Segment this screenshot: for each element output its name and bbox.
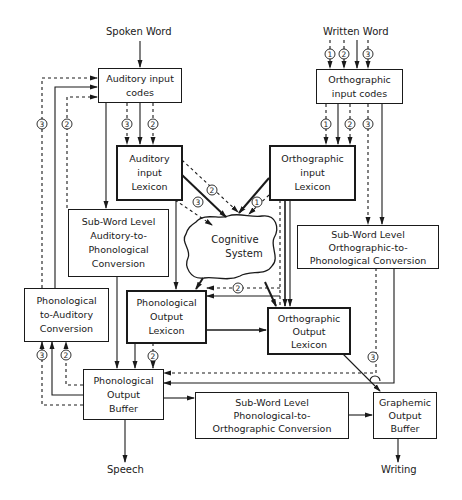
box-line: Output — [150, 310, 183, 324]
box-line: to-Auditory — [40, 308, 93, 322]
box-line: Lexicon — [291, 338, 327, 351]
box-line: Cognitive — [200, 233, 270, 247]
auditory-input-lexicon-box: Auditory input Lexicon — [116, 145, 183, 201]
box-line: Buffer — [391, 422, 420, 435]
spoken-word-label: Spoken Word — [106, 26, 172, 37]
svg-text:2: 2 — [210, 186, 215, 195]
box-line: Phonological — [36, 294, 96, 308]
speech-label: Speech — [107, 464, 144, 475]
phonological-output-buffer-box: Phonological Output Buffer — [83, 369, 164, 420]
svg-text:3: 3 — [371, 353, 376, 362]
box-line: Buffer — [109, 402, 138, 416]
box-line: Sub-Word Level — [82, 215, 156, 229]
box-line: Orthographic-to- — [328, 241, 407, 254]
box-line: Lexicon — [148, 324, 184, 338]
box-line: Conversion — [40, 322, 93, 336]
subword-phonological-to-orthographic-box: Sub-Word Level Phonological-to- Orthogra… — [195, 392, 349, 439]
box-line: Phonological — [88, 243, 148, 257]
svg-text:3: 3 — [366, 120, 371, 129]
box-line: Graphemic — [379, 396, 431, 409]
box-line: Auditory input — [106, 72, 174, 86]
box-line: Phonological Conversion — [310, 254, 426, 267]
box-line: Phonological-to- — [234, 409, 311, 422]
box-line: Output — [389, 409, 422, 422]
box-line: System — [200, 247, 270, 261]
box-line: Phonological — [93, 374, 153, 388]
svg-text:2: 2 — [342, 50, 347, 59]
box-line: Auditory-to- — [90, 229, 147, 243]
box-line: Orthographic — [328, 73, 391, 87]
box-line: Output — [293, 325, 326, 338]
svg-text:3: 3 — [125, 120, 130, 129]
phonological-to-auditory-conversion-box: Phonological to-Auditory Conversion — [24, 288, 109, 342]
box-line: input codes — [332, 87, 387, 101]
box-line: Orthographic — [278, 312, 341, 325]
svg-text:2: 2 — [64, 351, 69, 360]
subword-auditory-to-phonological-box: Sub-Word Level Auditory-to- Phonological… — [68, 209, 169, 277]
box-line: Lexicon — [131, 180, 167, 194]
orthographic-input-lexicon-box: Orthographic input Lexicon — [269, 145, 356, 201]
auditory-input-codes-box: Auditory input codes — [98, 68, 182, 103]
box-line: Orthographic — [281, 152, 344, 166]
svg-text:2: 2 — [65, 120, 70, 129]
svg-text:3: 3 — [196, 198, 201, 207]
svg-text:2: 2 — [151, 352, 156, 361]
box-line: input — [137, 166, 161, 180]
box-line: Conversion — [92, 257, 145, 271]
box-line: Auditory — [129, 152, 169, 166]
box-line: codes — [126, 86, 154, 100]
svg-text:1: 1 — [255, 198, 260, 207]
orthographic-input-codes-box: Orthographic input codes — [316, 69, 403, 104]
box-line: Lexicon — [294, 180, 330, 194]
svg-text:2: 2 — [236, 284, 241, 293]
cognitive-system-label: Cognitive System — [200, 233, 270, 261]
box-line: Output — [107, 388, 140, 402]
written-word-label: Written Word — [323, 26, 389, 37]
box-line: input — [300, 166, 324, 180]
svg-text:2: 2 — [151, 120, 156, 129]
box-line: Sub-Word Level — [235, 396, 309, 409]
svg-text:3: 3 — [40, 351, 45, 360]
box-line: Sub-Word Level — [331, 228, 405, 241]
writing-label: Writing — [381, 464, 417, 475]
svg-text:1: 1 — [324, 120, 329, 129]
svg-text:1: 1 — [328, 50, 333, 59]
svg-text:2: 2 — [348, 120, 353, 129]
box-line: Phonological — [136, 296, 196, 310]
subword-orthographic-to-phonological-box: Sub-Word Level Orthographic-to- Phonolog… — [297, 225, 439, 269]
orthographic-output-lexicon-box: Orthographic Output Lexicon — [267, 307, 351, 355]
svg-text:3: 3 — [366, 50, 371, 59]
phonological-output-lexicon-box: Phonological Output Lexicon — [126, 290, 207, 344]
graphemic-output-buffer-box: Graphemic Output Buffer — [373, 392, 437, 439]
box-line: Orthographic Conversion — [213, 422, 332, 435]
svg-text:3: 3 — [40, 120, 45, 129]
